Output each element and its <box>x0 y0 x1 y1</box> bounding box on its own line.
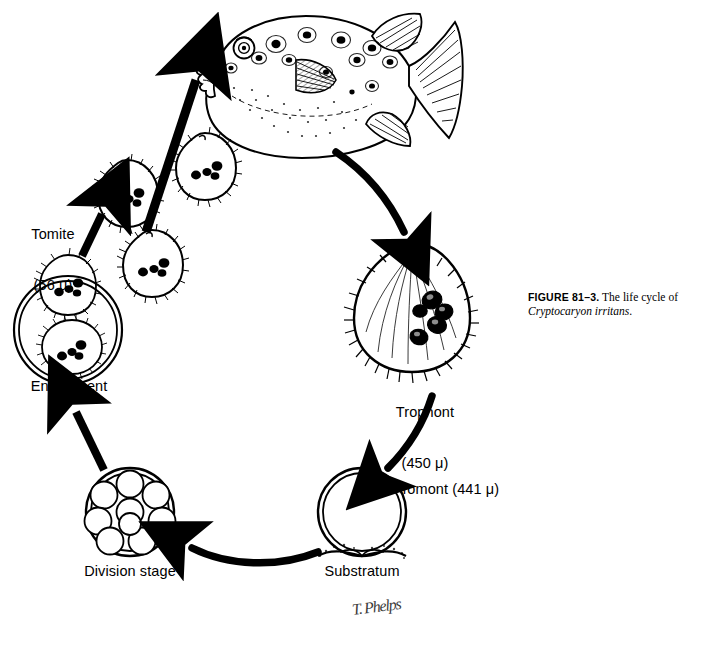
life-cycle-figure: Tomite (56 μ) Trophont (450 μ) Tomont (4… <box>0 0 702 645</box>
encystment-label: Encystment <box>8 378 130 395</box>
tomite-cell <box>117 224 189 304</box>
tomite-label: Tomite (56 μ) <box>12 192 94 328</box>
tomite-label-name: Tomite <box>12 226 94 243</box>
figure-species-name: Cryptocaryon irritans <box>528 305 629 317</box>
division-stage-label: Division stage <box>70 563 190 580</box>
life-cycle-diagram-canvas <box>0 0 702 645</box>
figure-caption: FIGURE 81–3. The life cycle of Cryptocar… <box>528 290 678 318</box>
fish-illustration <box>197 14 463 158</box>
arrow-tomont-to-division <box>192 548 318 563</box>
figure-caption-text: The life cycle of <box>599 291 678 303</box>
trophont-label-size: (450 μ) <box>365 455 485 472</box>
trophont-illustration <box>344 240 479 383</box>
arrow-fish-to-trophont <box>336 152 404 232</box>
trophont-label-name: Trophont <box>365 404 485 421</box>
tomite-label-size: (56 μ) <box>12 277 94 294</box>
division-stage-illustration <box>85 468 176 556</box>
tomont-label: Tomont (441 μ) <box>400 481 499 498</box>
substratum-label: Substratum <box>302 563 422 580</box>
figure-caption-end: . <box>629 305 632 317</box>
arrow-division-to-encystment <box>76 412 104 470</box>
figure-number: FIGURE 81–3. <box>528 291 599 303</box>
